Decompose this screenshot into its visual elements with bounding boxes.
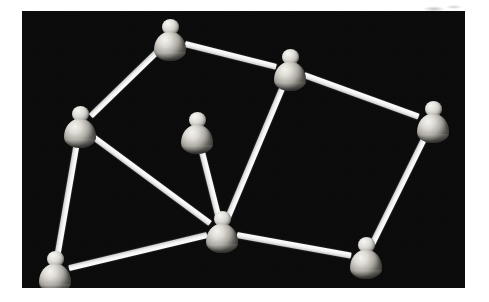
node-body	[274, 62, 306, 91]
node-body	[39, 264, 71, 288]
node-body	[64, 119, 96, 148]
network-node-person-icon	[180, 112, 214, 154]
figure-root	[0, 0, 489, 302]
node-body	[181, 125, 213, 154]
node-body	[417, 114, 449, 143]
node-body	[154, 32, 186, 61]
network-node-person-icon	[273, 49, 307, 91]
network-node-person-icon	[63, 106, 97, 148]
network-node-person-icon	[205, 211, 239, 253]
node-body	[350, 250, 382, 279]
network-node-person-icon	[38, 251, 72, 288]
node-body	[206, 224, 238, 253]
network-node-person-icon	[349, 237, 383, 279]
network-node-person-icon	[416, 101, 450, 143]
network-diagram-canvas	[22, 11, 465, 288]
node-layer	[22, 11, 465, 288]
network-node-person-icon	[153, 19, 187, 61]
